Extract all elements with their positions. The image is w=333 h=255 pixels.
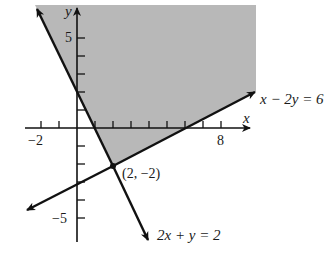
vertex-label: (2, −2): [122, 166, 161, 182]
tick-label-8: 8: [217, 133, 224, 148]
vertex-point: [110, 163, 116, 169]
tick-label-neg2: −2: [28, 133, 43, 148]
line-x-minus-2y-eq-6-lower: [27, 166, 113, 210]
line-label-x-minus-2y: x − 2y = 6: [259, 91, 324, 107]
y-axis-label: y: [63, 3, 72, 19]
tick-label-neg5: −5: [52, 211, 67, 226]
x-axis-label: x: [242, 110, 250, 126]
line-label-2x-plus-y: 2x + y = 2: [157, 227, 221, 243]
inequality-graph: y x 5 −5 −2 8 (2, −2) x − 2y = 6 2x + y …: [0, 0, 333, 255]
tick-label-5: 5: [65, 30, 72, 45]
